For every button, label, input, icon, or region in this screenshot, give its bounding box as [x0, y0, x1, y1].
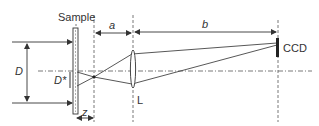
ccd-label: CCD — [283, 42, 307, 54]
distance-b-label: b — [202, 18, 208, 30]
sample-label: Sample — [58, 11, 95, 23]
optical-setup-diagram: Sample D D* L CCD a b z — [0, 0, 319, 126]
beam-diameter-label: D — [15, 65, 23, 77]
lens — [130, 50, 135, 88]
rays — [77, 43, 277, 86]
spot-diameter-label: D* — [54, 74, 67, 86]
ccd-detector — [276, 38, 279, 57]
sample-plate — [73, 28, 78, 114]
focal-point — [92, 75, 95, 78]
offset-z-label: z — [81, 106, 88, 118]
lens-label: L — [137, 94, 143, 106]
distance-a-label: a — [109, 19, 115, 31]
